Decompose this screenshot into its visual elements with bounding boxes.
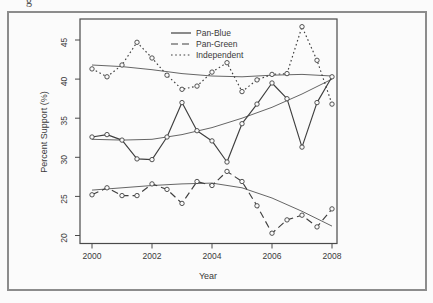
data-point-pan-green — [210, 183, 214, 187]
data-point-pan-blue — [330, 75, 334, 79]
y-tick-label: 45 — [59, 38, 69, 48]
x-tick-label: 2002 — [143, 251, 162, 261]
data-point-pan-green — [105, 186, 109, 190]
x-tick-label: 2008 — [323, 251, 342, 261]
data-point-independent — [255, 78, 259, 82]
y-tick-label: 30 — [59, 155, 69, 165]
data-point-independent — [315, 58, 319, 62]
data-point-independent — [285, 71, 289, 75]
data-point-pan-blue — [135, 157, 139, 161]
data-point-independent — [330, 102, 334, 106]
data-point-independent — [195, 84, 199, 88]
data-point-pan-blue — [240, 122, 244, 126]
data-point-pan-green — [240, 179, 244, 183]
data-point-pan-blue — [210, 139, 214, 143]
data-point-independent — [180, 87, 184, 91]
data-point-independent — [240, 89, 244, 93]
data-point-pan-blue — [180, 100, 184, 104]
x-axis-label: Year — [199, 271, 217, 281]
data-point-independent — [135, 40, 139, 44]
data-point-independent — [120, 63, 124, 67]
data-point-pan-green — [180, 201, 184, 205]
y-tick-label: 20 — [59, 233, 69, 243]
data-point-pan-green — [120, 193, 124, 197]
x-tick-label: 2004 — [203, 251, 222, 261]
legend-label-pan-blue: Pan-Blue — [196, 28, 231, 38]
y-tick-label: 40 — [59, 77, 69, 87]
legend-label-pan-green: Pan-Green — [196, 39, 238, 49]
legend-label-independent: Independent — [196, 50, 244, 60]
y-tick-label: 25 — [59, 194, 69, 204]
screenshot-root: { "artifact": { "cropped_title_fragment"… — [0, 0, 433, 303]
data-point-pan-blue — [195, 129, 199, 133]
data-point-pan-blue — [225, 160, 229, 164]
data-point-pan-blue — [90, 135, 94, 139]
data-point-pan-blue — [165, 135, 169, 139]
data-point-pan-green — [135, 193, 139, 197]
data-point-pan-green — [330, 207, 334, 211]
data-point-pan-green — [195, 179, 199, 183]
x-tick-label: 2006 — [263, 251, 282, 261]
data-point-pan-green — [315, 225, 319, 229]
data-point-pan-green — [90, 193, 94, 197]
data-point-pan-green — [225, 169, 229, 173]
data-point-pan-blue — [285, 97, 289, 101]
data-point-pan-blue — [255, 102, 259, 106]
support-trend-chart: 20253035404520002002200420062008Percent … — [0, 0, 433, 303]
data-point-independent — [105, 75, 109, 79]
data-point-independent — [90, 67, 94, 71]
data-point-pan-blue — [300, 145, 304, 149]
x-tick-label: 2000 — [83, 251, 102, 261]
data-point-independent — [210, 70, 214, 74]
data-point-pan-green — [165, 187, 169, 191]
data-point-pan-blue — [150, 157, 154, 161]
data-point-pan-green — [270, 231, 274, 235]
y-axis-label: Percent Support (%) — [39, 91, 49, 173]
data-point-independent — [165, 73, 169, 77]
data-point-pan-blue — [105, 132, 109, 136]
data-point-independent — [270, 72, 274, 76]
data-point-pan-blue — [270, 81, 274, 85]
data-point-independent — [150, 56, 154, 60]
data-point-independent — [300, 25, 304, 29]
data-point-pan-green — [150, 182, 154, 186]
data-point-pan-green — [255, 204, 259, 208]
data-point-pan-blue — [120, 138, 124, 142]
y-tick-label: 35 — [59, 116, 69, 126]
data-point-pan-green — [300, 213, 304, 217]
data-point-independent — [225, 61, 229, 65]
data-point-pan-green — [285, 218, 289, 222]
data-point-pan-blue — [315, 100, 319, 104]
